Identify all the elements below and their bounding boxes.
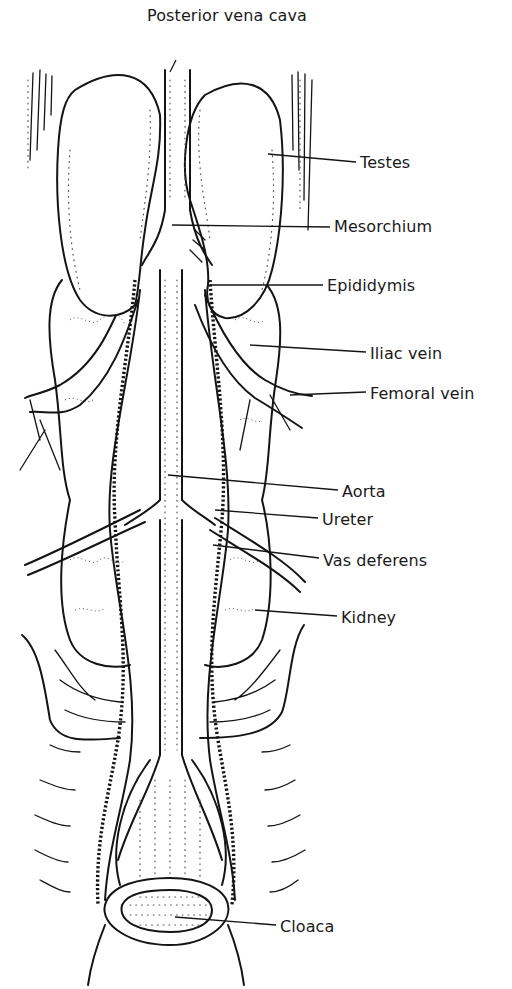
label-aorta: Aorta: [342, 484, 386, 500]
aorta: [118, 270, 222, 860]
label-posterior-vena-cava: Posterior vena cava: [147, 8, 307, 24]
label-ureter: Ureter: [322, 512, 373, 528]
cloaca: [88, 878, 244, 985]
body-folds: [22, 625, 305, 892]
label-epididymis: Epididymis: [327, 278, 415, 294]
label-mesorchium: Mesorchium: [334, 219, 432, 235]
label-vas-deferens: Vas deferens: [323, 553, 427, 569]
label-femoral-vein: Femoral vein: [370, 386, 475, 402]
veins: [20, 295, 312, 470]
label-cloaca: Cloaca: [280, 919, 334, 935]
label-testes: Testes: [360, 155, 410, 171]
diagram-illustration: [0, 0, 512, 989]
label-iliac-vein: Iliac vein: [370, 346, 442, 362]
anatomy-diagram: Posterior vena cava Testes Mesorchium Ep…: [0, 0, 512, 989]
label-kidney: Kidney: [341, 610, 396, 626]
